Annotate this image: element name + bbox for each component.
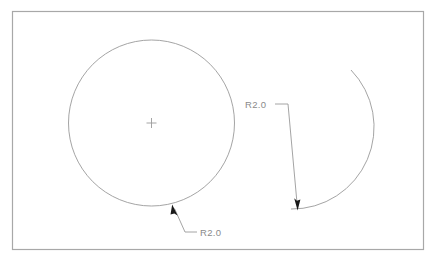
open-arc [291, 70, 374, 209]
radius-leader-circle [171, 205, 198, 233]
cad-drawing-svg: R2.0 R2.0 [0, 0, 434, 266]
radius-label-circle-text: R2.0 [200, 227, 221, 238]
drawing-frame [13, 12, 424, 250]
drawing-canvas: R2.0 R2.0 [0, 0, 434, 266]
radius-leader-arc [275, 104, 300, 211]
radius-label-arc-text: R2.0 [245, 99, 266, 110]
center-cross-icon [147, 118, 157, 128]
